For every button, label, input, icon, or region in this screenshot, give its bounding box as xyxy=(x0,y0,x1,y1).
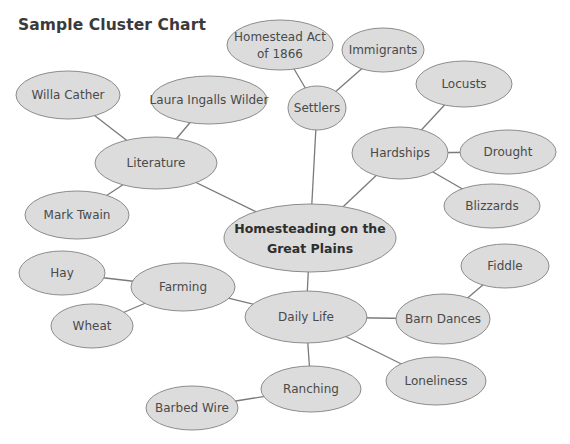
cluster-diagram: Homesteading on theGreat PlainsSettlersH… xyxy=(0,0,570,444)
node-label: Homestead Act xyxy=(234,30,326,44)
node-label: of 1866 xyxy=(257,47,303,61)
node-label: Great Plains xyxy=(267,241,353,256)
node-ellipse xyxy=(224,204,396,272)
node-label: Settlers xyxy=(294,101,340,115)
node-label: Blizzards xyxy=(465,199,518,213)
node-loneliness: Loneliness xyxy=(386,357,486,405)
node-label: Barn Dances xyxy=(405,312,481,326)
node-label: Ranching xyxy=(283,382,339,396)
node-label: Farming xyxy=(159,280,207,294)
node-label: Homesteading on the xyxy=(234,221,386,236)
node-settlers: Settlers xyxy=(288,86,346,130)
node-blizzards: Blizzards xyxy=(444,184,540,228)
node-center: Homesteading on theGreat Plains xyxy=(224,204,396,272)
node-willa-cather: Willa Cather xyxy=(16,71,120,119)
node-drought: Drought xyxy=(460,130,556,174)
node-label: Immigrants xyxy=(349,43,418,57)
node-label: Hay xyxy=(50,266,73,280)
node-barn-dances: Barn Dances xyxy=(396,294,490,344)
node-label: Laura Ingalls Wilder xyxy=(150,93,269,107)
node-label: Wheat xyxy=(73,319,112,333)
node-label: Hardships xyxy=(370,146,430,160)
node-label: Drought xyxy=(484,145,533,159)
node-barbed-wire: Barbed Wire xyxy=(146,386,238,430)
node-immigrants: Immigrants xyxy=(342,28,424,72)
node-literature: Literature xyxy=(95,137,217,189)
node-label: Mark Twain xyxy=(44,208,111,222)
node-label: Locusts xyxy=(441,77,486,91)
node-label: Loneliness xyxy=(405,374,468,388)
node-fiddle: Fiddle xyxy=(461,244,549,288)
node-daily-life: Daily Life xyxy=(245,291,367,343)
node-ellipse xyxy=(227,20,333,70)
node-label: Daily Life xyxy=(278,310,334,324)
node-label: Literature xyxy=(127,156,186,170)
node-label: Barbed Wire xyxy=(155,401,229,415)
node-hay: Hay xyxy=(19,251,105,295)
node-mark-twain: Mark Twain xyxy=(25,191,129,239)
node-ranching: Ranching xyxy=(261,366,361,412)
node-layer: Homesteading on theGreat PlainsSettlersH… xyxy=(16,20,556,430)
node-label: Willa Cather xyxy=(31,88,104,102)
node-laura-ingalls-wilder: Laura Ingalls Wilder xyxy=(150,76,269,124)
node-wheat: Wheat xyxy=(51,304,133,348)
node-locusts: Locusts xyxy=(416,61,512,107)
node-hardships: Hardships xyxy=(352,127,448,179)
node-farming: Farming xyxy=(131,263,235,311)
node-label: Fiddle xyxy=(487,259,522,273)
node-homestead-act: Homestead Actof 1866 xyxy=(227,20,333,70)
